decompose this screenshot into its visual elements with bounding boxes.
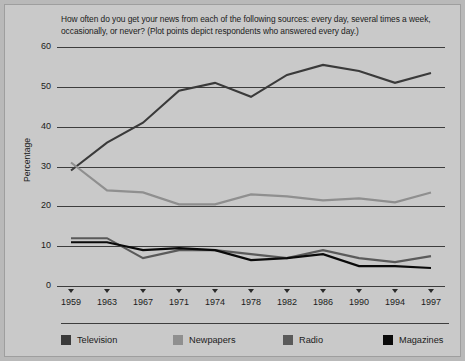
legend-swatch-magazines — [383, 335, 393, 345]
legend-item-newpapers[interactable]: Newpapers — [173, 330, 235, 350]
legend-item-magazines[interactable]: Magazines — [383, 330, 443, 350]
legend-swatch-radio — [283, 335, 293, 345]
chart-lines — [5, 5, 462, 358]
legend-swatch-newpapers — [173, 335, 183, 345]
legend-swatch-television — [61, 335, 71, 345]
legend-divider — [61, 323, 449, 324]
legend-label-radio: Radio — [299, 335, 323, 345]
chart-legend: TelevisionNewpapersRadioMagazines — [5, 330, 462, 352]
legend-item-radio[interactable]: Radio — [283, 330, 323, 350]
legend-label-magazines: Magazines — [399, 335, 443, 345]
chart-figure: How often do you get your news from each… — [4, 4, 461, 357]
legend-item-television[interactable]: Television — [61, 330, 117, 350]
series-line-radio — [71, 238, 431, 262]
series-line-television — [71, 65, 431, 171]
legend-label-television: Television — [77, 335, 117, 345]
series-line-newpapers — [71, 163, 431, 205]
legend-label-newpapers: Newpapers — [189, 335, 235, 345]
